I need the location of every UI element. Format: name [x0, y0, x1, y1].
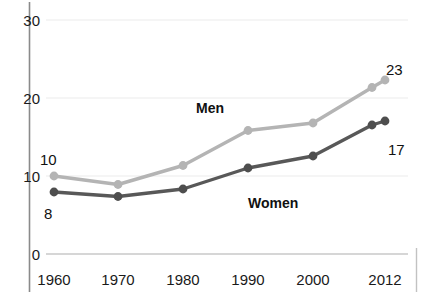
x-tick-2012: 2012: [355, 272, 415, 287]
y-tick-10: 10: [12, 169, 40, 184]
chart-canvas: [0, 0, 425, 299]
series-line-men: [54, 80, 385, 185]
x-tick-2000: 2000: [283, 272, 343, 287]
x-tick-1990: 1990: [218, 272, 278, 287]
x-tick-1970: 1970: [88, 272, 148, 287]
series-label-men: Men: [196, 101, 224, 115]
series-markers-women: [50, 117, 390, 201]
x-tick-1960: 1960: [24, 272, 84, 287]
y-tick-20: 20: [12, 91, 40, 106]
series-label-women: Women: [248, 196, 298, 210]
y-tick-30: 30: [12, 13, 40, 28]
x-tick-1980: 1980: [153, 272, 213, 287]
data-label-men-first: 10: [40, 152, 57, 167]
data-label-men-last: 23: [386, 62, 403, 77]
line-chart: 30 20 10 0 1960 1970 1980 1990 2000 2012…: [0, 0, 425, 299]
series-line-women: [54, 121, 385, 197]
data-label-women-last: 17: [388, 142, 405, 157]
y-tick-0: 0: [12, 247, 40, 262]
data-label-women-first: 8: [44, 206, 52, 221]
series-markers-men: [50, 76, 390, 189]
plot-area: 30 20 10 0 1960 1970 1980 1990 2000 2012…: [0, 0, 425, 299]
